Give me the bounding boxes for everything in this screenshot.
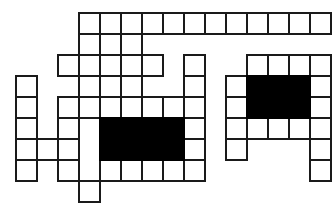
crossword-cell-blocked [141, 117, 164, 140]
crossword-cell[interactable] [183, 54, 206, 77]
crossword-cell[interactable] [120, 12, 143, 35]
crossword-cell[interactable] [36, 138, 59, 161]
crossword-cell[interactable] [15, 96, 38, 119]
crossword-cell[interactable] [309, 138, 332, 161]
crossword-cell[interactable] [15, 138, 38, 161]
crossword-cell[interactable] [183, 75, 206, 98]
crossword-cell[interactable] [183, 138, 206, 161]
crossword-cell[interactable] [15, 117, 38, 140]
crossword-cell[interactable] [246, 12, 269, 35]
crossword-cell[interactable] [99, 159, 122, 182]
crossword-cell-blocked [246, 96, 269, 119]
crossword-cell[interactable] [141, 54, 164, 77]
crossword-cell[interactable] [99, 12, 122, 35]
crossword-cell[interactable] [141, 159, 164, 182]
crossword-cell[interactable] [78, 54, 101, 77]
crossword-cell[interactable] [120, 96, 143, 119]
crossword-cell-blocked [267, 96, 290, 119]
crossword-cell[interactable] [99, 96, 122, 119]
crossword-cell[interactable] [15, 75, 38, 98]
crossword-cell[interactable] [141, 12, 164, 35]
crossword-cell[interactable] [57, 159, 80, 182]
crossword-cell[interactable] [225, 117, 248, 140]
crossword-cell[interactable] [78, 33, 101, 56]
crossword-cell-blocked [120, 138, 143, 161]
crossword-cell-blocked [99, 117, 122, 140]
crossword-cell[interactable] [246, 117, 269, 140]
crossword-cell[interactable] [267, 54, 290, 77]
crossword-cell[interactable] [225, 138, 248, 161]
crossword-cell[interactable] [120, 159, 143, 182]
crossword-cell[interactable] [309, 117, 332, 140]
crossword-cell[interactable] [78, 12, 101, 35]
crossword-cell-blocked [99, 138, 122, 161]
crossword-cell[interactable] [78, 96, 101, 119]
crossword-cell[interactable] [225, 75, 248, 98]
crossword-cell[interactable] [288, 12, 311, 35]
crossword-cell[interactable] [120, 54, 143, 77]
crossword-cell[interactable] [57, 138, 80, 161]
crossword-cell-blocked [162, 117, 185, 140]
crossword-cell-blocked [288, 96, 311, 119]
crossword-cell[interactable] [309, 75, 332, 98]
crossword-cell[interactable] [225, 12, 248, 35]
crossword-cell[interactable] [141, 96, 164, 119]
crossword-cell[interactable] [183, 96, 206, 119]
crossword-cell[interactable] [162, 159, 185, 182]
crossword-cell-blocked [141, 138, 164, 161]
crossword-cell[interactable] [183, 159, 206, 182]
crossword-cell[interactable] [204, 12, 227, 35]
crossword-cell-blocked [267, 75, 290, 98]
crossword-cell[interactable] [309, 54, 332, 77]
crossword-cell[interactable] [120, 75, 143, 98]
crossword-cell[interactable] [78, 180, 101, 203]
crossword-cell[interactable] [246, 54, 269, 77]
crossword-cell[interactable] [78, 75, 101, 98]
crossword-cell[interactable] [57, 117, 80, 140]
crossword-cell[interactable] [288, 117, 311, 140]
crossword-cell[interactable] [225, 96, 248, 119]
crossword-cell-blocked [162, 138, 185, 161]
crossword-cell[interactable] [183, 12, 206, 35]
crossword-cell[interactable] [267, 117, 290, 140]
crossword-cell[interactable] [162, 12, 185, 35]
crossword-cell[interactable] [288, 54, 311, 77]
crossword-cell-blocked [246, 75, 269, 98]
crossword-cell[interactable] [15, 159, 38, 182]
crossword-cell[interactable] [309, 12, 332, 35]
crossword-cell[interactable] [120, 33, 143, 56]
crossword-cell-blocked [288, 75, 311, 98]
crossword-cell[interactable] [309, 159, 332, 182]
crossword-cell[interactable] [309, 96, 332, 119]
crossword-cell-blocked [120, 117, 143, 140]
crossword-cell[interactable] [57, 54, 80, 77]
crossword-cell[interactable] [267, 12, 290, 35]
crossword-cell[interactable] [99, 54, 122, 77]
crossword-cell[interactable] [162, 96, 185, 119]
crossword-cell[interactable] [57, 96, 80, 119]
crossword-cell[interactable] [183, 117, 206, 140]
